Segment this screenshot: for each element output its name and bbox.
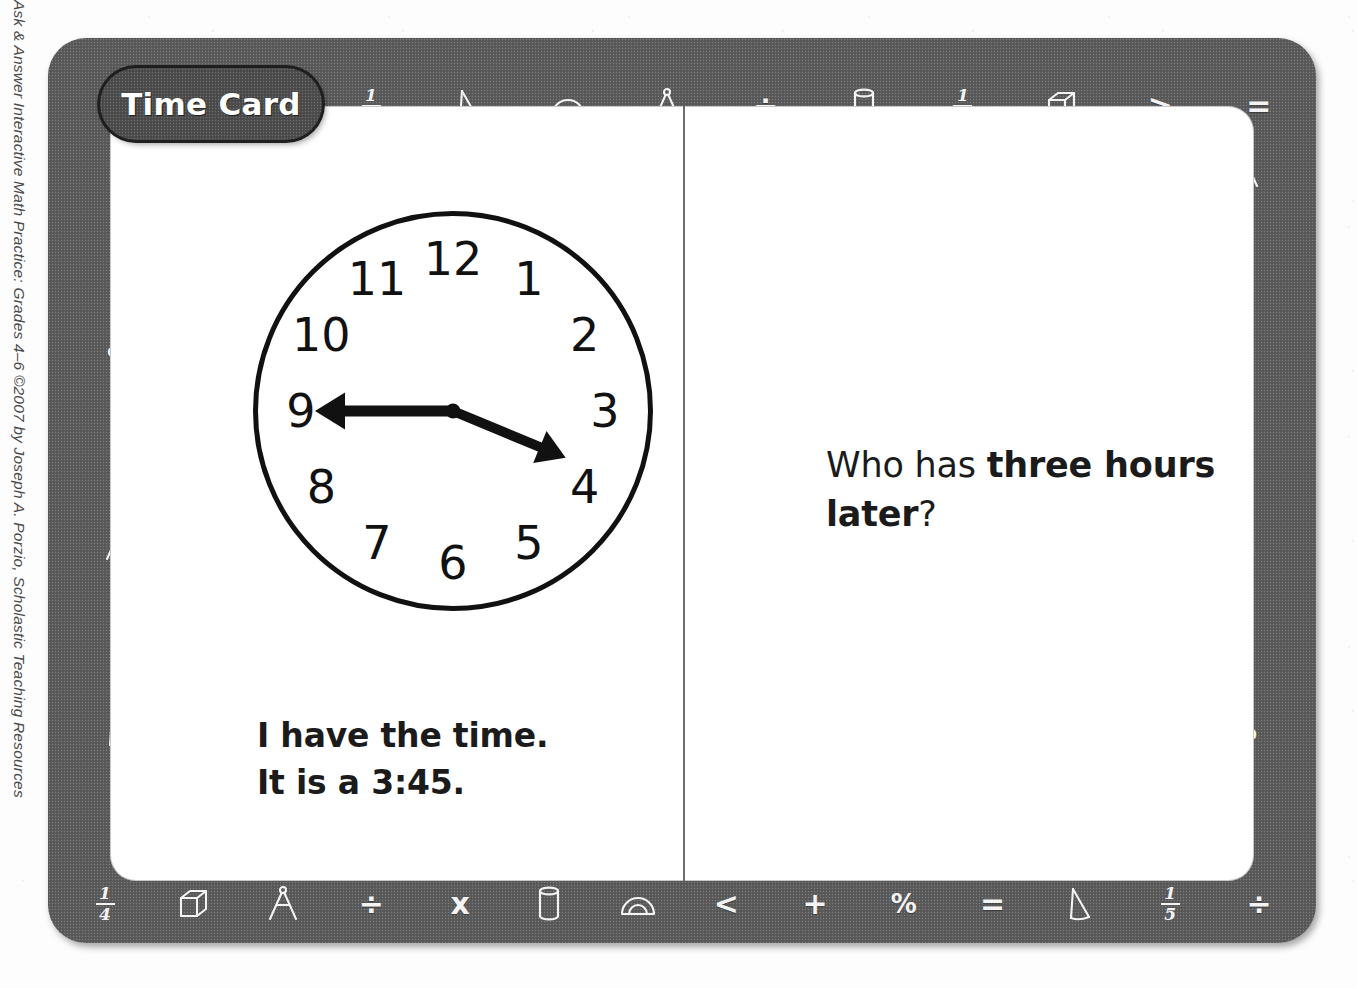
divide-icon-glyph: ÷: [359, 889, 384, 919]
multiply-icon-glyph: x: [450, 889, 469, 919]
equals-icon-glyph: =: [1246, 91, 1271, 121]
page-root: Ask & Answer Interactive Math Practice: …: [0, 0, 1357, 988]
equals-icon: =: [970, 881, 1016, 927]
clock-center-pin: [446, 404, 461, 419]
percent-icon-glyph: %: [891, 891, 917, 917]
fraction-one-fifth-icon: 15: [1147, 881, 1193, 927]
divide-icon: ÷: [348, 881, 394, 927]
answer-line-2-suffix: .: [452, 763, 464, 802]
plus-icon: +: [792, 881, 838, 927]
cylinder-icon: [526, 881, 572, 927]
fraction-one-quarter-icon: 14: [82, 881, 128, 927]
clock-minute-hand: [315, 392, 453, 429]
compass-icon: [260, 881, 306, 927]
less-than-icon: <: [703, 881, 749, 927]
plus-icon-glyph: +: [803, 889, 828, 919]
cube-icon: [171, 881, 217, 927]
answer-time-value: 3:45: [371, 763, 452, 802]
answer-line-2-prefix: It is a: [257, 763, 371, 802]
answer-line-1: I have the time.: [257, 713, 717, 760]
divide-icon: ÷: [1236, 881, 1282, 927]
divide-icon-glyph: ÷: [1246, 889, 1271, 919]
answer-line-2: It is a 3:45.: [257, 760, 717, 807]
card-paper-area: 121234567891011 I have the time. It is a…: [110, 106, 1254, 881]
time-card: 13÷12>= +÷x%18 14÷x<+%=15÷ x%=÷+ 1212345…: [48, 38, 1316, 943]
copyright-credit-line: Ask & Answer Interactive Math Practice: …: [2, 0, 36, 988]
cone-icon: [1058, 881, 1104, 927]
protractor-icon: [615, 881, 661, 927]
multiply-icon: x: [437, 881, 483, 927]
card-title-pill: Time Card: [100, 68, 322, 140]
page-title: Time Card: [121, 86, 301, 122]
equals-icon-glyph: =: [980, 889, 1005, 919]
border-strip-bottom: 14÷x<+%=15÷: [82, 875, 1282, 933]
clock-hour-hand: [451, 406, 566, 463]
answer-statement: I have the time. It is a 3:45.: [257, 713, 717, 807]
question-prefix: Who has: [826, 445, 987, 485]
less-than-icon-glyph: <: [714, 889, 739, 919]
clock-hands: [253, 211, 653, 611]
question-statement: Who has three hours later?: [826, 441, 1246, 539]
percent-icon: %: [881, 881, 927, 927]
analog-clock: 121234567891011: [253, 211, 653, 611]
question-suffix: ?: [918, 494, 936, 534]
